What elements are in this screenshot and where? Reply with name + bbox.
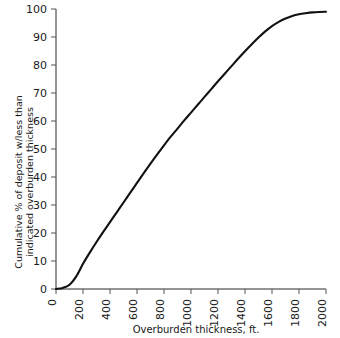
y-axis-ticks [51,9,56,289]
x-axis-title: Overburden thickness, ft. [133,324,260,335]
x-tick-label: 1400 [235,299,248,327]
y-axis-title-line-1: Cumulative % of deposit w/less than [13,95,24,268]
x-tick-label: 400 [100,299,113,320]
y-tick-label: 70 [33,87,47,100]
x-axis-tick-labels: 0200400600800100012001400160018002000 [46,299,329,327]
x-tick-label: 600 [127,299,140,320]
y-tick-label: 20 [33,227,47,240]
y-tick-label: 0 [40,283,47,296]
x-tick-label: 0 [46,299,59,306]
y-tick-label: 90 [33,31,47,44]
x-tick-label: 1800 [289,299,302,327]
y-tick-label: 60 [33,115,47,128]
y-tick-label: 30 [33,199,47,212]
y-tick-label: 50 [33,143,47,156]
x-tick-label: 800 [154,299,167,320]
axis-lines [56,9,326,289]
y-tick-label: 100 [26,3,47,16]
y-axis-title-line-2: indicated overburden thickness [24,107,35,257]
x-tick-label: 1600 [262,299,275,327]
y-tick-label: 80 [33,59,47,72]
y-tick-label: 40 [33,171,47,184]
x-tick-label: 200 [73,299,86,320]
chart-plot-area: 0102030405060708090100 02004006008001000… [0,0,340,338]
y-tick-label: 10 [33,255,47,268]
cumulative-distribution-curve [56,12,326,289]
chart-figure: 0102030405060708090100 02004006008001000… [0,0,340,338]
x-tick-label: 1200 [208,299,221,327]
x-axis-ticks [56,289,326,294]
x-tick-label: 1000 [181,299,194,327]
x-tick-label: 2000 [316,299,329,327]
